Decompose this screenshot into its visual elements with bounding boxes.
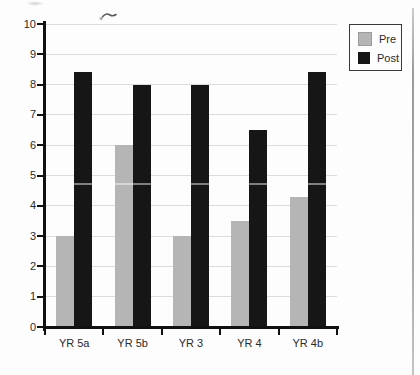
y-axis-tick: [37, 326, 44, 328]
bar-pre-yr-4b: [290, 197, 308, 327]
y-axis-tick: [37, 175, 44, 177]
y-axis-tick: [37, 265, 44, 267]
bar-pre-yr-3: [173, 236, 191, 327]
x-axis-line: [43, 326, 339, 329]
legend-label-post: Post: [377, 52, 399, 64]
legend-swatch-pre: [358, 32, 372, 46]
y-tick-label: 5: [12, 169, 36, 182]
x-axis-tick: [278, 327, 280, 335]
bar-post-yr-5a: [74, 72, 92, 327]
chart-legend: Pre Post: [349, 24, 402, 71]
bar-pre-yr-4: [231, 221, 249, 327]
y-axis-tick: [37, 205, 44, 207]
legend-item-post: Post: [358, 52, 401, 64]
bar-post-yr-4: [249, 130, 267, 327]
gridline: [45, 24, 337, 25]
y-tick-label: 8: [12, 78, 36, 91]
y-axis-tick: [37, 53, 44, 55]
x-category-label: YR 4b: [279, 337, 337, 350]
y-axis-tick: [37, 23, 44, 25]
x-category-label: YR 5a: [45, 337, 103, 350]
bar-post-yr-5b: [133, 85, 151, 327]
x-axis-tick: [219, 327, 221, 335]
scan-artifact-page-edge-line: [412, 8, 414, 375]
scan-artifact-smudge: [26, 1, 44, 6]
y-tick-label: 6: [12, 139, 36, 152]
y-axis-tick: [37, 296, 44, 298]
legend-label-pre: Pre: [379, 33, 396, 45]
y-axis-tick: [37, 235, 44, 237]
y-tick-label: 0: [12, 321, 36, 334]
scan-artifact-streak: [46, 183, 336, 185]
y-tick-label: 3: [12, 230, 36, 243]
y-tick-label: 1: [12, 290, 36, 303]
y-axis-tick: [37, 114, 44, 116]
scan-artifact-pen-mark: [99, 11, 119, 23]
x-category-label: YR 4: [220, 337, 278, 350]
gridline: [45, 54, 337, 55]
y-axis-tick: [37, 84, 44, 86]
bar-post-yr-3: [191, 85, 209, 327]
y-tick-label: 4: [12, 199, 36, 212]
y-tick-label: 9: [12, 48, 36, 61]
x-axis-tick: [44, 327, 46, 335]
y-tick-label: 10: [12, 18, 36, 31]
bar-pre-yr-5a: [56, 236, 74, 327]
bar-pre-yr-5b: [115, 145, 133, 327]
scanned-chart-page: 012345678910YR 5aYR 5bYR 3YR 4YR 4b Pre …: [0, 0, 420, 375]
legend-swatch-post: [358, 52, 370, 64]
x-axis-tick: [102, 327, 104, 335]
x-category-label: YR 5b: [104, 337, 162, 350]
x-axis-tick: [336, 327, 338, 335]
y-tick-label: 2: [12, 260, 36, 273]
x-axis-tick: [161, 327, 163, 335]
y-axis-tick: [37, 144, 44, 146]
bar-post-yr-4b: [308, 72, 326, 327]
y-tick-label: 7: [12, 108, 36, 121]
legend-item-pre: Pre: [358, 32, 401, 46]
x-category-label: YR 3: [162, 337, 220, 350]
